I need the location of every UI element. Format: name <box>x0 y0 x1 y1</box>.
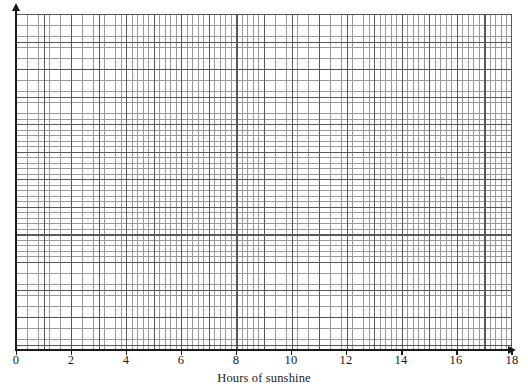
x-axis-title: Hours of sunshine <box>0 371 528 386</box>
graph-figure: 0 2 4 6 8 10 12 14 16 18 Hours of sunshi… <box>0 0 528 391</box>
x-tick-label: 10 <box>271 353 311 368</box>
x-tick-label: 2 <box>51 353 91 368</box>
x-tick-label: 14 <box>381 353 421 368</box>
grid-top-edge <box>16 14 512 15</box>
graph-paper-grid <box>16 14 512 350</box>
x-tick-label: 18 <box>492 353 528 368</box>
x-tick-label: 6 <box>161 353 201 368</box>
x-tick-label: 12 <box>326 353 366 368</box>
x-tick-label: 0 <box>0 353 36 368</box>
y-axis-line <box>15 10 17 350</box>
x-tick-label: 4 <box>106 353 146 368</box>
x-tick-label: 16 <box>436 353 476 368</box>
grid-right-edge <box>511 14 512 350</box>
x-axis-line <box>15 349 511 351</box>
x-tick-label: 8 <box>216 353 256 368</box>
y-axis-arrow-icon <box>12 3 20 11</box>
